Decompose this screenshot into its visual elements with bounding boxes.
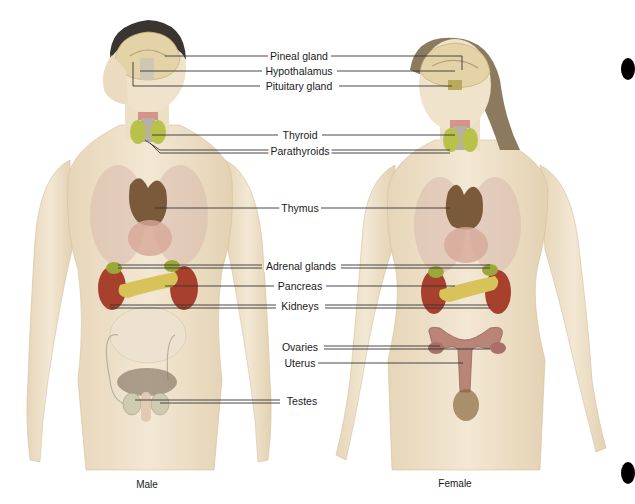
label-hypothalamus: Hypothalamus <box>263 65 334 77</box>
cropped-marker-bottom <box>621 462 635 484</box>
male-figure <box>27 20 271 470</box>
label-testes: Testes <box>285 395 319 407</box>
caption-male: Male <box>136 479 158 490</box>
female-figure <box>336 38 606 470</box>
caption-female: Female <box>438 478 471 489</box>
label-kidneys: Kidneys <box>279 300 320 312</box>
label-thyroid: Thyroid <box>280 129 319 141</box>
label-parathyroids: Parathyroids <box>269 145 332 157</box>
cropped-marker-top <box>621 58 635 80</box>
label-ovaries: Ovaries <box>280 341 320 353</box>
label-uterus: Uterus <box>283 357 318 369</box>
label-pancreas: Pancreas <box>276 280 324 292</box>
label-adrenal-glands: Adrenal glands <box>264 260 338 272</box>
label-pineal-gland: Pineal gland <box>268 50 330 62</box>
label-thymus: Thymus <box>279 202 320 214</box>
label-pituitary-gland: Pituitary gland <box>264 80 335 92</box>
